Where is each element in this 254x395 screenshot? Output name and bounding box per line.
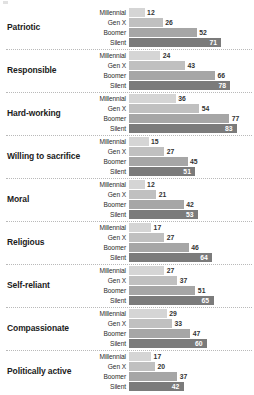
bar: [129, 51, 160, 60]
series-label: Silent: [88, 81, 129, 90]
series-label: Boomer: [88, 71, 129, 80]
bar-track: 71: [129, 38, 254, 47]
bar-value-label: 36: [178, 94, 186, 103]
series-label: Gen X: [88, 104, 129, 113]
bar-row: Boomer37: [88, 372, 254, 381]
category-label: Responsible: [0, 65, 88, 76]
series-label: Boomer: [88, 286, 129, 295]
bar-row: Silent64: [88, 253, 254, 262]
bar: [129, 61, 185, 70]
bar-track: 27: [129, 147, 254, 156]
bar-row: Boomer42: [88, 200, 254, 209]
series-label: Millennial: [88, 223, 129, 232]
bar-track: 33: [129, 319, 254, 328]
bar-value-label: 27: [167, 147, 175, 156]
bar-value-label: 65: [202, 296, 210, 305]
series-label: Gen X: [88, 233, 129, 242]
series-label: Silent: [88, 296, 129, 305]
bar-track: 17: [129, 352, 254, 361]
group-separator: [6, 350, 252, 351]
bar-stack: Millennial17Gen X20Boomer37Silent42: [88, 352, 254, 391]
bar: [129, 124, 237, 133]
category-label: Compassionate: [0, 323, 88, 334]
bar-track: 64: [129, 253, 254, 262]
bar: [129, 352, 151, 361]
series-label: Silent: [88, 38, 129, 47]
bar-value-label: 54: [202, 104, 210, 113]
bar-row: Gen X37: [88, 276, 254, 285]
bar: [129, 157, 188, 166]
series-label: Silent: [88, 382, 129, 391]
bar-row: Gen X54: [88, 104, 254, 113]
bar-track: 21: [129, 190, 254, 199]
bar-value-label: 51: [198, 286, 206, 295]
chart-group: Willing to sacrificeMillennial15Gen X27B…: [0, 135, 254, 178]
bar-stack: Millennial29Gen X33Boomer47Silent60: [88, 309, 254, 348]
series-label: Millennial: [88, 137, 129, 146]
series-label: Millennial: [88, 352, 129, 361]
bar: [129, 147, 164, 156]
bar-row: Silent42: [88, 382, 254, 391]
bar-stack: Millennial27Gen X37Boomer51Silent65: [88, 266, 254, 305]
bar-value-label: 52: [199, 28, 207, 37]
bar-row: Silent65: [88, 296, 254, 305]
bar-value-label: 15: [151, 137, 159, 146]
bar: [129, 362, 155, 371]
bar-track: 53: [129, 210, 254, 219]
bar-value-label: 60: [195, 339, 203, 348]
bar-track: 77: [129, 114, 254, 123]
bar-track: 15: [129, 137, 254, 146]
bar-value-label: 66: [217, 71, 225, 80]
bar: [129, 329, 190, 338]
chart-group: Politically activeMillennial17Gen X20Boo…: [0, 350, 254, 393]
series-label: Gen X: [88, 319, 129, 328]
bar: [129, 180, 145, 189]
bar-row: Silent51: [88, 167, 254, 176]
bar-value-label: 12: [147, 8, 155, 17]
bar-row: Millennial15: [88, 137, 254, 146]
chart-group: Self-reliantMillennial27Gen X37Boomer51S…: [0, 264, 254, 307]
bar-track: 20: [129, 362, 254, 371]
series-label: Silent: [88, 167, 129, 176]
category-label: Religious: [0, 237, 88, 248]
series-label: Boomer: [88, 200, 129, 209]
series-label: Gen X: [88, 190, 129, 199]
bar: [129, 114, 229, 123]
bar-track: 52: [129, 28, 254, 37]
group-separator: [6, 264, 252, 265]
group-separator: [6, 178, 252, 179]
bar-row: Gen X27: [88, 233, 254, 242]
bar-track: 17: [129, 223, 254, 232]
bar-value-label: 42: [172, 382, 180, 391]
bar: [129, 233, 164, 242]
bar-row: Gen X20: [88, 362, 254, 371]
bar-value-label: 27: [167, 233, 175, 242]
bar-value-label: 47: [193, 329, 201, 338]
bar-row: Silent71: [88, 38, 254, 47]
bar-value-label: 37: [180, 276, 188, 285]
bar-track: 47: [129, 329, 254, 338]
category-label: Self-reliant: [0, 280, 88, 291]
bar: [129, 309, 167, 318]
bar-row: Boomer51: [88, 286, 254, 295]
bar-value-label: 83: [225, 124, 233, 133]
bar-value-label: 53: [186, 210, 194, 219]
bar-row: Silent60: [88, 339, 254, 348]
bar: [129, 71, 215, 80]
bar: [129, 276, 177, 285]
group-separator: [6, 92, 252, 93]
bar-track: 27: [129, 233, 254, 242]
bar-value-label: 21: [159, 190, 167, 199]
series-label: Millennial: [88, 309, 129, 318]
bar: [129, 243, 189, 252]
bar-row: Millennial12: [88, 180, 254, 189]
chart-group: PatrioticMillennial12Gen X26Boomer52Sile…: [0, 6, 254, 49]
bar: [129, 28, 197, 37]
bar-value-label: 45: [190, 157, 198, 166]
series-label: Boomer: [88, 28, 129, 37]
bar-track: 66: [129, 71, 254, 80]
chart-group: CompassionateMillennial29Gen X33Boomer47…: [0, 307, 254, 350]
bar-row: Gen X26: [88, 18, 254, 27]
bar-track: 42: [129, 200, 254, 209]
bar-value-label: 29: [169, 309, 177, 318]
